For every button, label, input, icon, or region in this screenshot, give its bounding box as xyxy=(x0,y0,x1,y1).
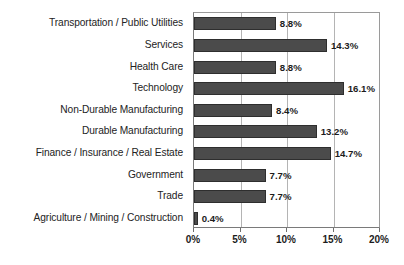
bar xyxy=(194,169,266,182)
category-label: Transportation / Public Utilities xyxy=(49,16,183,29)
x-axis-tick xyxy=(193,228,194,232)
bar-row: 16.1% xyxy=(194,82,380,95)
bar xyxy=(194,17,276,30)
bar-chart: Transportation / Public UtilitiesService… xyxy=(0,0,404,265)
bar-row: 13.2% xyxy=(194,125,380,138)
plot-area: 8.8%14.3%8.8%16.1%8.4%13.2%14.7%7.7%7.7%… xyxy=(193,12,380,228)
x-axis-tick xyxy=(379,228,380,232)
bar-value-label: 13.2% xyxy=(321,125,348,138)
category-axis-labels: Transportation / Public UtilitiesService… xyxy=(0,12,188,228)
bar xyxy=(194,125,317,138)
bar-value-label: 16.1% xyxy=(348,82,375,95)
bar-value-label: 8.4% xyxy=(276,104,298,117)
bar-row: 8.8% xyxy=(194,17,380,30)
category-label: Durable Manufacturing xyxy=(82,124,183,137)
bar-value-label: 14.3% xyxy=(331,39,358,52)
bar-row: 8.4% xyxy=(194,104,380,117)
bar xyxy=(194,61,276,74)
x-axis-tick xyxy=(240,228,241,232)
category-label: Government xyxy=(128,168,183,181)
bar-value-label: 0.4% xyxy=(202,212,224,225)
x-axis-tick xyxy=(333,228,334,232)
x-axis-tick-label: 5% xyxy=(232,234,246,245)
category-label: Finance / Insurance / Real Estate xyxy=(36,146,183,159)
category-label: Trade xyxy=(157,189,183,202)
bar-row: 0.4% xyxy=(194,212,380,225)
category-label: Services xyxy=(145,38,183,51)
bar-value-label: 7.7% xyxy=(270,190,292,203)
bar xyxy=(194,190,266,203)
category-label: Health Care xyxy=(130,60,183,73)
bar-row: 14.7% xyxy=(194,147,380,160)
bar-value-label: 14.7% xyxy=(335,147,362,160)
bar-row: 8.8% xyxy=(194,61,380,74)
bar-row: 7.7% xyxy=(194,169,380,182)
bar xyxy=(194,212,198,225)
category-label: Technology xyxy=(132,81,183,94)
x-axis-tick-label: 20% xyxy=(369,234,389,245)
bar-value-label: 8.8% xyxy=(280,17,302,30)
bar-row: 7.7% xyxy=(194,190,380,203)
bar xyxy=(194,82,344,95)
category-label: Agriculture / Mining / Construction xyxy=(34,211,183,224)
bar-value-label: 8.8% xyxy=(280,61,302,74)
x-axis-tick xyxy=(286,228,287,232)
x-axis-tick-label: 15% xyxy=(322,234,342,245)
bar xyxy=(194,147,331,160)
category-label: Non-Durable Manufacturing xyxy=(60,103,183,116)
bar xyxy=(194,104,272,117)
bar-row: 14.3% xyxy=(194,39,380,52)
x-axis-tick-label: 0% xyxy=(186,234,200,245)
bar xyxy=(194,39,327,52)
bar-value-label: 7.7% xyxy=(270,169,292,182)
x-axis-tick-label: 10% xyxy=(276,234,296,245)
